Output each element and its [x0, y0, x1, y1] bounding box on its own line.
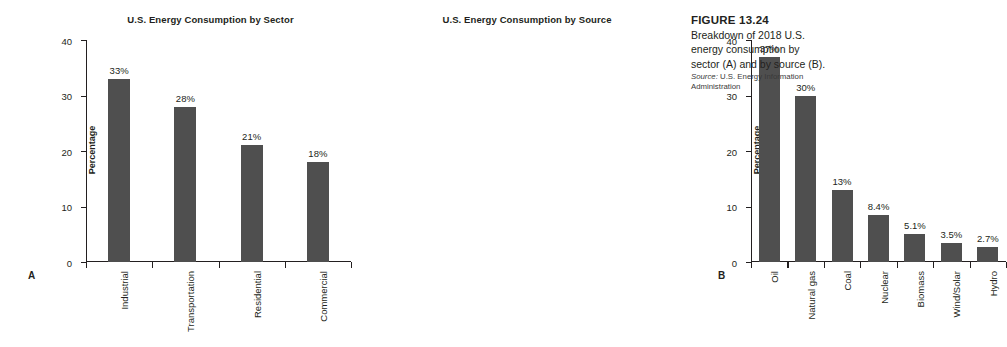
bar: 21%Residential — [241, 145, 263, 262]
bar-value-label: 21% — [242, 131, 261, 142]
x-tick — [970, 262, 971, 268]
chart-a-plot-area: Percentage 010203040 33%Industrial28%Tra… — [86, 40, 351, 262]
y-tick-label: 10 — [726, 202, 737, 213]
bar: 2.7%Hydro — [977, 247, 998, 262]
x-category-label: Oil — [769, 271, 780, 283]
figure-number: FIGURE 13.24 — [691, 14, 831, 26]
y-tick: 30 — [81, 96, 86, 97]
y-tick-label: 0 — [732, 257, 737, 268]
x-tick — [152, 262, 153, 268]
chart-a-title: U.S. Energy Consumption by Sector — [0, 14, 393, 25]
bar: 33%Industrial — [108, 79, 130, 262]
chart-panel-a: U.S. Energy Consumption by Sector Percen… — [0, 0, 365, 347]
bar: 18%Commercial — [307, 162, 329, 262]
x-category-label: Transportation — [185, 271, 196, 332]
chart-a-y-axis-title: Percentage — [87, 126, 97, 175]
x-category-label: Biomass — [915, 271, 926, 307]
y-tick: 10 — [746, 207, 751, 208]
x-tick — [897, 262, 898, 268]
bar-value-label: 18% — [308, 148, 327, 159]
y-tick-label: 40 — [61, 35, 72, 46]
x-category-label: Industrial — [119, 271, 130, 310]
x-category-label: Coal — [842, 271, 853, 291]
bar-value-label: 8.4% — [868, 201, 890, 212]
x-tick — [751, 262, 752, 268]
bar-value-label: 5.1% — [904, 220, 926, 231]
bar: 13%Coal — [832, 190, 853, 262]
chart-panel-b: U.S. Energy Consumption by Source Percen… — [355, 0, 675, 347]
x-tick — [285, 262, 286, 268]
figure-source-line: Source: U.S. Energy Information Administ… — [691, 72, 831, 92]
bar-value-label: 33% — [110, 65, 129, 76]
y-tick-label: 30 — [61, 91, 72, 102]
bar-value-label: 3.5% — [941, 229, 963, 240]
y-tick-label: 20 — [61, 146, 72, 157]
x-category-label: Hydro — [988, 271, 999, 296]
x-tick — [219, 262, 220, 268]
x-tick — [787, 262, 788, 268]
y-tick-label: 20 — [726, 146, 737, 157]
source-prefix: Source: — [691, 72, 718, 81]
panel-letter-b: B — [718, 270, 725, 281]
figure-caption-text: Breakdown of 2018 U.S. energy consumptio… — [691, 28, 831, 71]
bar-value-label: 28% — [176, 93, 195, 104]
x-tick — [86, 262, 87, 268]
panel-letter-a: A — [28, 270, 35, 281]
bar: 30%Natural gas — [795, 96, 816, 263]
x-tick — [933, 262, 934, 268]
y-tick: 30 — [746, 96, 751, 97]
x-category-label: Wind/Solar — [951, 271, 962, 317]
y-tick: 10 — [81, 207, 86, 208]
bar: 8.4%Nuclear — [868, 215, 889, 262]
bar: 28%Transportation — [174, 107, 196, 262]
x-category-label: Natural gas — [806, 271, 817, 320]
y-tick-label: 0 — [67, 257, 72, 268]
x-category-label: Commercial — [318, 271, 329, 322]
bar: 5.1%Biomass — [904, 234, 925, 262]
x-tick — [824, 262, 825, 268]
x-tick — [351, 262, 352, 268]
bar-value-label: 2.7% — [977, 233, 999, 244]
x-category-label: Residential — [252, 271, 263, 318]
x-category-label: Nuclear — [879, 271, 890, 304]
figure-caption: FIGURE 13.24 Breakdown of 2018 U.S. ener… — [691, 14, 831, 92]
y-tick: 40 — [81, 40, 86, 41]
y-tick: 20 — [81, 151, 86, 152]
y-tick-label: 10 — [61, 202, 72, 213]
y-tick: 20 — [746, 151, 751, 152]
chart-b-title: U.S. Energy Consumption by Source — [355, 14, 687, 25]
bar-value-label: 13% — [833, 176, 852, 187]
bar: 3.5%Wind/Solar — [941, 243, 962, 262]
x-tick — [860, 262, 861, 268]
